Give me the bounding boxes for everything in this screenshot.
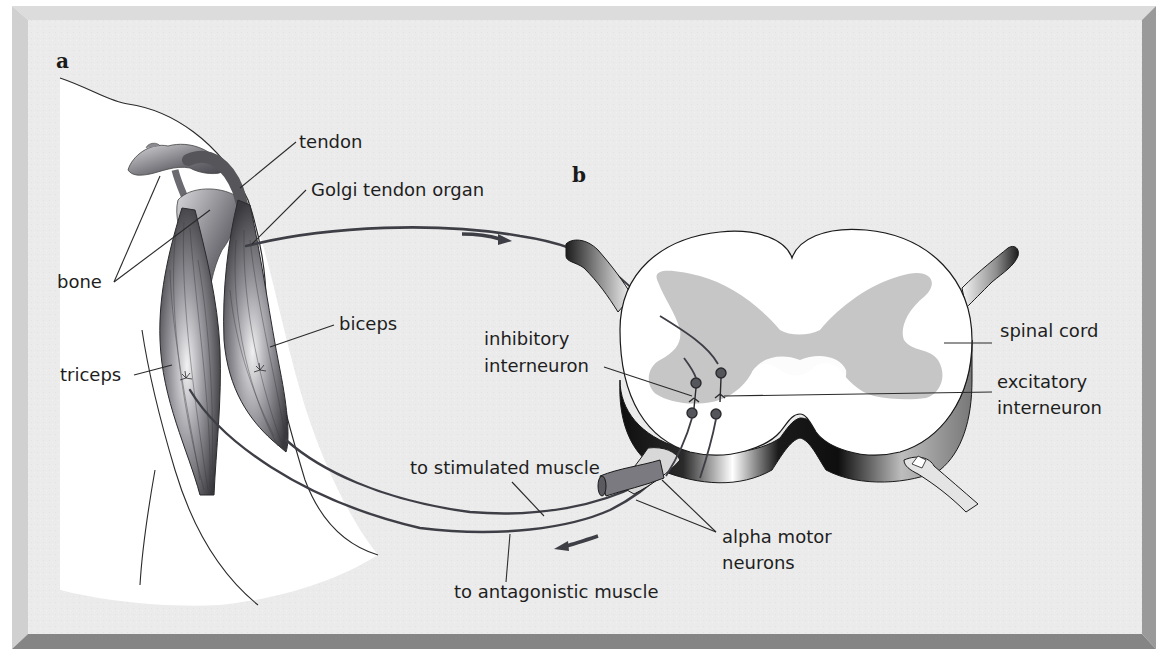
label-inhibitory-line2: interneuron [484,355,589,376]
label-to-antagonistic-muscle: to antagonistic muscle [454,581,659,602]
label-tendon: tendon [299,131,362,152]
label-alpha-motor-line1: alpha motor [722,526,832,547]
label-bone: bone [57,271,102,292]
label-to-stimulated-muscle: to stimulated muscle [410,457,600,478]
label-spinal-cord: spinal cord [1000,320,1098,341]
label-excitatory-line1: excitatory [997,371,1088,392]
label-inhibitory-line1: inhibitory [484,328,570,349]
label-alpha-motor-line2: neurons [722,552,795,573]
reflex-arc-diagram: a b tendon Golgi tendon organ bone bicep… [0,0,1169,656]
label-excitatory-line2: interneuron [997,397,1102,418]
label-golgi-tendon-organ: Golgi tendon organ [311,179,484,200]
label-biceps: biceps [339,313,397,334]
label-triceps: triceps [60,364,121,385]
panel-letter-a: a [56,49,69,73]
panel-letter-b: b [572,163,586,187]
